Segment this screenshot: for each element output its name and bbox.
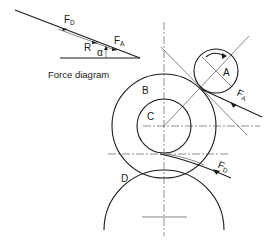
rollers: A B C D [104,49,238,230]
label-roller-d: D [121,173,128,184]
label-roller-c: C [147,111,154,122]
center-line-c-to-a [164,36,249,126]
rotation-arrowhead-icon [222,53,227,59]
label-r: R [84,42,91,53]
force-diagram: FD R FA α Force diagram [15,10,140,80]
rotation-arrow-a [206,53,224,57]
forces: FA FD [160,87,262,178]
force-fd-inner-line [166,154,204,165]
roller-diagram: FD R FA α Force diagram A B C D FA FD [0,0,274,240]
label-fd: FD [64,14,75,26]
force-diagram-caption: Force diagram [48,69,109,80]
label-fa: FA [114,35,125,47]
label-roller-b: B [142,85,149,96]
label-roller-a: A [223,67,230,78]
label-alpha: α [97,47,103,58]
common-tangent-line [161,47,247,135]
label-force-fa: FA [235,87,250,103]
force-diagram-main-line [15,10,140,58]
alpha-arrowhead [104,46,108,50]
